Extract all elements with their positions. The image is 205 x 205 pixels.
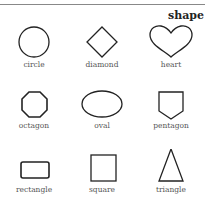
- top-divider: [0, 4, 205, 5]
- diamond-icon: [82, 24, 122, 60]
- shape-label: oval: [68, 121, 136, 130]
- triangle-icon: [151, 149, 191, 185]
- page-title: shape: [168, 9, 204, 22]
- square-icon: [82, 149, 122, 185]
- shape-item-pentagon: pentagon: [137, 89, 205, 130]
- shape-item-circle: circle: [0, 24, 68, 69]
- oval-icon: [78, 89, 126, 121]
- shape-item-octagon: octagon: [0, 89, 68, 130]
- shape-label: rectangle: [0, 185, 68, 194]
- shape-item-square: square: [68, 149, 136, 194]
- shape-label: triangle: [137, 185, 205, 194]
- shape-label: pentagon: [137, 121, 205, 130]
- shape-item-diamond: diamond: [68, 24, 136, 69]
- shape-label: octagon: [0, 121, 68, 130]
- shape-item-triangle: triangle: [137, 149, 205, 194]
- pentagon-icon: [151, 89, 191, 121]
- circle-icon: [14, 24, 54, 60]
- shape-label: heart: [137, 60, 205, 69]
- rectangle-icon: [14, 149, 54, 185]
- heart-icon: [147, 24, 195, 60]
- shape-label: square: [68, 185, 136, 194]
- shape-item-rectangle: rectangle: [0, 149, 68, 194]
- shape-item-heart: heart: [137, 24, 205, 69]
- shape-label: circle: [0, 60, 68, 69]
- shape-item-oval: oval: [68, 89, 136, 130]
- shape-label: diamond: [68, 60, 136, 69]
- octagon-icon: [14, 89, 54, 121]
